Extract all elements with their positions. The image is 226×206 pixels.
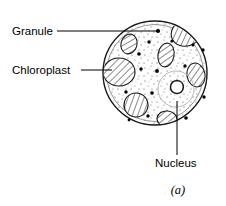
nucleus-label: Nucleus [155, 157, 197, 169]
granule-13 [184, 116, 188, 120]
granule-14 [192, 44, 195, 47]
granule-2 [147, 40, 150, 43]
granule-4 [137, 52, 141, 56]
plant-cell-diagram: Granule Chloroplast Nucleus (a) [0, 0, 226, 206]
nucleus-outline [170, 81, 183, 94]
chloroplast-left [103, 58, 135, 86]
granule-11 [202, 95, 205, 98]
granule-5 [201, 48, 204, 51]
chloroplast-label: Chloroplast [12, 64, 71, 76]
granule-3 [170, 39, 173, 42]
granule-15 [128, 119, 131, 122]
granule-label: Granule [12, 25, 53, 37]
granule-10 [150, 91, 154, 95]
granule-7 [155, 69, 159, 73]
granule-8 [183, 64, 186, 67]
granule-6 [139, 67, 142, 70]
figure-caption: (a) [171, 183, 186, 197]
granule-12 [146, 114, 149, 117]
granule-9 [124, 90, 127, 93]
